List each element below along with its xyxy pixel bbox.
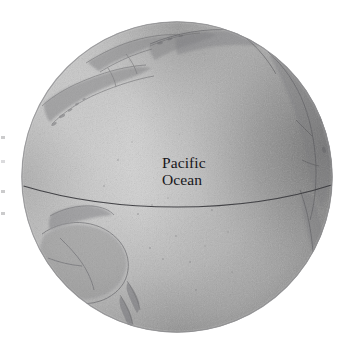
cropped-edge-mark — [1, 190, 5, 193]
ocean-label-line2: Ocean — [162, 171, 206, 188]
ocean-label-line1: Pacific — [162, 154, 206, 171]
ocean-label: Pacific Ocean — [162, 154, 206, 188]
cropped-edge-mark — [1, 160, 5, 163]
globe-figure: Pacific Ocean — [0, 0, 348, 352]
cropped-edge-mark — [1, 136, 5, 139]
cropped-edge-mark — [1, 212, 5, 215]
